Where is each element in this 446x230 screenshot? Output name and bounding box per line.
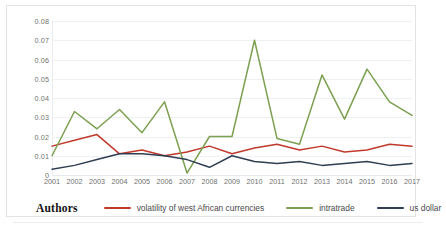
legend-color-swatch	[286, 207, 313, 210]
legend-entries: volatility of west African currenciesint…	[104, 203, 446, 213]
legend-label: intratrade	[319, 203, 354, 213]
legend-entry[interactable]: us dollar	[377, 203, 442, 213]
legend-label: us dollar	[410, 203, 442, 213]
legend-entry[interactable]: volatility of west African currencies	[104, 203, 265, 213]
gridline	[52, 175, 412, 176]
legend-entry[interactable]: intratrade	[286, 203, 354, 213]
y-axis-tick-label: 0.01	[35, 151, 49, 160]
x-axis-labels: 2001200220032004200520062007200820092010…	[52, 177, 412, 190]
x-axis-tick-label: 2017	[404, 177, 420, 186]
legend-color-swatch	[104, 207, 131, 210]
x-axis-tick-label: 2015	[359, 177, 375, 186]
x-axis-tick-label: 2009	[224, 177, 240, 186]
x-axis-tick-label: 2008	[201, 177, 217, 186]
legend-divider	[13, 222, 423, 223]
series-line	[52, 135, 412, 156]
x-axis-tick-label: 2004	[111, 177, 127, 186]
y-axis-tick-label: 0.02	[35, 132, 49, 141]
chart-frame: 0.080.070.060.050.040.030.020.010 200120…	[6, 5, 416, 217]
x-axis-tick-label: 2010	[246, 177, 262, 186]
series-lines	[52, 21, 412, 175]
y-axis-tick-label: 0.05	[35, 74, 49, 83]
legend-title: Authors	[36, 202, 78, 214]
x-axis-tick-label: 2001	[44, 177, 60, 186]
series-line	[52, 154, 412, 169]
chart-legend: Authors volatility of west African curre…	[14, 196, 422, 220]
x-axis-tick-label: 2014	[336, 177, 352, 186]
legend-label: volatility of west African currencies	[137, 203, 265, 213]
y-axis-labels: 0.080.070.060.050.040.030.020.010	[7, 21, 49, 175]
x-axis-tick-label: 2016	[381, 177, 397, 186]
legend-color-swatch	[377, 207, 404, 210]
y-axis-tick-label: 0.08	[35, 17, 49, 26]
y-axis-tick-label: 0.04	[35, 94, 49, 103]
x-axis-tick-label: 2005	[134, 177, 150, 186]
x-axis-tick-label: 2006	[156, 177, 172, 186]
x-axis-tick-label: 2007	[179, 177, 195, 186]
y-axis-tick-label: 0.03	[35, 113, 49, 122]
x-axis-tick-label: 2013	[314, 177, 330, 186]
x-axis-tick-label: 2002	[66, 177, 82, 186]
x-axis-tick-label: 2012	[291, 177, 307, 186]
x-axis-tick-label: 2011	[269, 177, 285, 186]
x-axis-tick-label: 2003	[89, 177, 105, 186]
y-axis-tick-label: 0.06	[35, 55, 49, 64]
y-axis-tick-label: 0.07	[35, 36, 49, 45]
